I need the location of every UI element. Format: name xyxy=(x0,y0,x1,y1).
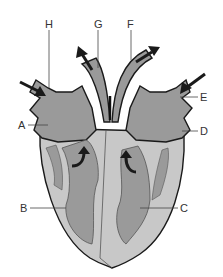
label-h: H xyxy=(45,18,53,30)
label-e: E xyxy=(200,91,207,103)
label-d: D xyxy=(200,125,208,137)
label-b: B xyxy=(20,202,27,214)
label-g: G xyxy=(94,18,103,30)
label-a: A xyxy=(18,119,26,131)
label-f: F xyxy=(127,18,134,30)
heart-outer-wall xyxy=(40,128,184,268)
heart-diagram: H G F E D A B C xyxy=(0,0,223,277)
label-c: C xyxy=(180,202,188,214)
